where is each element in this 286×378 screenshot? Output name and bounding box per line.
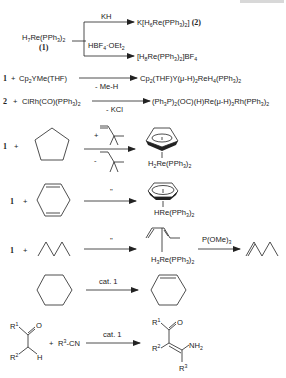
svg-text:1: 1 — [10, 197, 14, 206]
svg-text:-: - — [94, 156, 97, 165]
intermediate-fragment: H3Re(PPh3)2 — [151, 255, 194, 265]
scheme-8: R1 O R2 H + R3-CN cat. 1 R1 O R2 NH2 R3 — [10, 317, 203, 373]
svg-text:NH2: NH2 — [189, 341, 203, 351]
svg-text:R2: R2 — [10, 352, 18, 362]
svg-text:cat. 1: cat. 1 — [99, 277, 118, 286]
nitrile: R3-CN — [58, 338, 80, 348]
svg-text:+: + — [14, 142, 19, 151]
svg-text:O: O — [177, 318, 183, 327]
svg-text:+: + — [13, 97, 18, 106]
scheme-5: 1 + " HRe(PPh3)2 — [10, 183, 195, 218]
scheme-2: 1 + Cp2YMe(THF) - Me-H Cp2(THF)Y(μ-H)2Re… — [3, 74, 241, 91]
svg-text:H: H — [37, 353, 42, 362]
tbe-below — [100, 152, 124, 172]
reaction-scheme-diagram: H7Re(PPh3)2 (1) KH HBF4·OEt2 K[H6Re(PPh3… — [0, 0, 286, 378]
second-reagent: P(OMe)3 — [202, 235, 232, 245]
svg-text:+: + — [11, 74, 16, 83]
svg-text:R1: R1 — [152, 317, 160, 327]
svg-text:2: 2 — [3, 97, 7, 106]
svg-text:1: 1 — [3, 142, 7, 151]
svg-text:cat. 1: cat. 1 — [103, 330, 122, 339]
product: Cp2(THF)Y(μ-H)2ReH4(PPh3)2 — [140, 74, 241, 84]
scheme-4: 1 + + - H2Re(PPh3)2 — [3, 126, 191, 172]
svg-text:+: + — [94, 131, 99, 140]
reagent: Cp2YMe(THF) — [19, 74, 68, 84]
svg-text:O: O — [36, 321, 42, 330]
product-fragment: HRe(PPh3)2 — [154, 208, 195, 218]
svg-text:": " — [110, 236, 113, 245]
enaminone-structure: R1 O R2 NH2 R3 — [152, 317, 203, 373]
svg-text:R3: R3 — [179, 363, 187, 373]
pentane-structure — [38, 242, 70, 256]
product-fragment: H2Re(PPh3)2 — [148, 159, 191, 169]
svg-text:": " — [110, 187, 113, 196]
scheme-3: 2 + ClRh(CO)(PPh3)2 - KCl (Ph3P)2(OC)(H)… — [3, 97, 269, 114]
scheme-7: cat. 1 — [37, 275, 186, 305]
cyclohexadiene-structure — [37, 184, 70, 216]
scheme-6: 1 + " P(OMe)3 H3Re(PPh3)2 — [10, 228, 278, 265]
corner-label-fragment — [240, 0, 284, 3]
pentene-structure — [246, 242, 278, 256]
pentadiene-ligand — [146, 228, 180, 252]
ketone-structure: R1 O R2 H — [10, 321, 42, 362]
cyclohexene-structure — [151, 275, 186, 305]
reagent: ClRh(CO)(PPh3)2 — [22, 97, 81, 107]
svg-text:1: 1 — [3, 74, 7, 83]
scheme-1: H7Re(PPh3)2 (1) KH HBF4·OEt2 K[H6Re(PPh3… — [22, 12, 201, 62]
tbe-above — [100, 126, 124, 145]
svg-text:R1: R1 — [10, 321, 18, 331]
cyclohexane-structure — [37, 275, 72, 305]
byproduct: - KCl — [106, 105, 123, 114]
svg-text:+: + — [23, 246, 28, 255]
svg-text:R2: R2 — [152, 343, 160, 353]
svg-text:+: + — [49, 339, 54, 348]
cyclopentadienyl-complex — [146, 128, 178, 158]
upper-product: K[H6Re(PPh3)2] (2) — [137, 18, 201, 28]
reactant-label: (1) — [39, 43, 49, 52]
upper-reagent: KH — [101, 12, 112, 21]
lower-reagent: HBF4·OEt2 — [88, 41, 125, 51]
svg-text:1: 1 — [10, 246, 14, 255]
byproduct: - Me-H — [95, 82, 118, 91]
lower-product: [H8Re(PPh3)2]BF4 — [137, 52, 197, 62]
svg-text:+: + — [23, 197, 28, 206]
cyclopentane-structure — [35, 128, 69, 160]
arene-complex — [148, 183, 178, 207]
product: (Ph3P)2(OC)(H)Re(μ-H)3Rh(PPh3)2 — [152, 97, 269, 107]
reactant-formula: H7Re(PPh3)2 — [22, 33, 65, 43]
